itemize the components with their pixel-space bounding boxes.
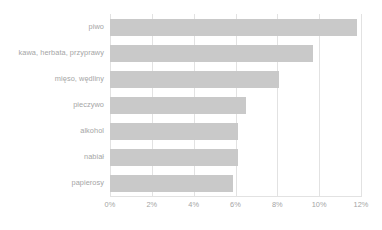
x-tick-label: 4% (174, 200, 214, 210)
bar-row: piwo (110, 14, 361, 40)
bar-row: nabiał (110, 144, 361, 170)
bar (110, 123, 238, 140)
x-tick-label: 10% (299, 200, 339, 210)
bar (110, 175, 233, 192)
x-axis-line (110, 196, 362, 197)
category-label: kawa, herbata, przyprawy (0, 40, 104, 66)
x-tick-label: 12% (341, 200, 381, 210)
bar-row: pieczywo (110, 92, 361, 118)
bar-row: papierosy (110, 170, 361, 196)
bar (110, 149, 238, 166)
bar-row: mięso, wędliny (110, 66, 361, 92)
bar (110, 71, 279, 88)
plot-area: piwokawa, herbata, przyprawymięso, wędli… (110, 14, 361, 196)
category-label: nabiał (0, 144, 104, 170)
bar-chart: piwokawa, herbata, przyprawymięso, wędli… (0, 0, 382, 230)
x-tick-label: 6% (216, 200, 256, 210)
gridline-12% (361, 14, 362, 196)
x-tick-label: 0% (90, 200, 130, 210)
x-tick-label: 8% (257, 200, 297, 210)
bar (110, 97, 246, 114)
bar (110, 45, 313, 62)
bar-row: kawa, herbata, przyprawy (110, 40, 361, 66)
bar-row: alkohol (110, 118, 361, 144)
bar (110, 19, 357, 36)
category-label: alkohol (0, 118, 104, 144)
x-tick-label: 2% (132, 200, 172, 210)
category-label: papierosy (0, 170, 104, 196)
category-label: piwo (0, 14, 104, 40)
category-label: mięso, wędliny (0, 66, 104, 92)
category-label: pieczywo (0, 92, 104, 118)
chart-title (0, 0, 382, 4)
